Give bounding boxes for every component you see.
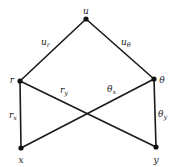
edge-r-x — [20, 81, 21, 148]
node-label-u: u — [83, 6, 89, 16]
node-u — [83, 16, 88, 21]
edge-u-r — [20, 19, 86, 81]
node-label-x: x — [18, 155, 23, 165]
edge-labels: uruθrxryθxθy — [9, 37, 167, 122]
edge-label-u-theta: uθ — [121, 37, 131, 49]
edge-label-theta-y: θy — [158, 109, 167, 121]
edge-label-u-r: ur — [41, 37, 51, 49]
node-label-y: y — [152, 155, 159, 165]
node-x — [18, 145, 23, 150]
edge-label-r-y: ry — [60, 85, 68, 97]
node-y — [153, 144, 158, 149]
node-label-theta: θ — [159, 75, 165, 85]
node-label-r: r — [10, 75, 15, 85]
edge-u-theta — [86, 19, 154, 79]
node-theta — [151, 76, 156, 81]
edge-theta-x — [21, 79, 154, 148]
dependency-diagram: uruθrxryθxθy urθxy — [0, 0, 175, 167]
edge-theta-y — [154, 79, 156, 147]
edge-label-theta-x: θx — [107, 84, 116, 96]
node-r — [17, 78, 22, 83]
edge-label-r-x: rx — [9, 110, 17, 122]
